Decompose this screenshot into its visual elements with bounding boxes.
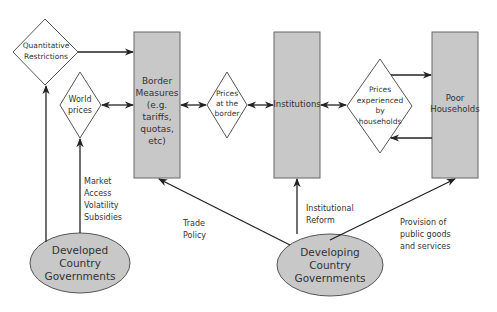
market-access-label: Market Access Volatility Subsidies	[84, 176, 122, 224]
prices-experienced-label: Prices experienced by households	[350, 85, 410, 127]
quantitative-restrictions-label: Quantitative Restrictions	[15, 41, 77, 62]
arrow-developing-to-border	[159, 179, 290, 245]
poor-households-label: Poor Households	[430, 93, 480, 115]
provision-label: Provision of public goods and services	[400, 217, 451, 253]
developed-governments-label: Developed Country Governments	[30, 244, 130, 283]
developing-governments-label: Developing Country Governments	[277, 246, 383, 285]
world-prices-label: World prices	[62, 94, 98, 116]
border-measures-label: Border Measures (e.g. tariffs, quotas, e…	[134, 75, 180, 147]
institutional-reform-label: Institutional Reform	[306, 203, 354, 227]
trade-policy-label: Trade Policy	[183, 218, 206, 242]
institutions-label: Institutions	[272, 99, 322, 111]
prices-at-border-label: Prices at the border	[208, 89, 246, 119]
